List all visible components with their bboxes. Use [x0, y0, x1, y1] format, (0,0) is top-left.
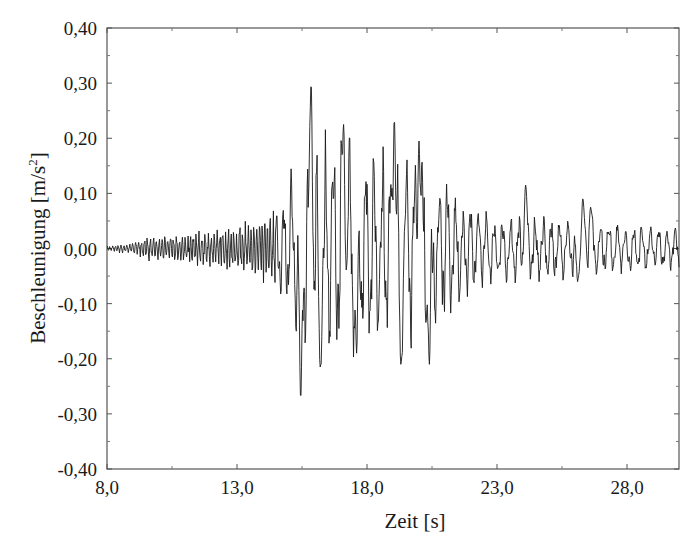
y-tick-label: -0,40: [57, 459, 97, 480]
x-tick-label: 8,0: [95, 477, 119, 498]
x-tick-label: 28,0: [610, 477, 643, 498]
y-axis-title-end: ]: [26, 152, 50, 159]
acceleration-series: [107, 87, 679, 396]
y-axis-title: Beschleunigung [m/s2]: [25, 152, 50, 343]
x-tick-label: 18,0: [350, 477, 383, 498]
acceleration-line: [107, 87, 679, 396]
y-tick-label: 0,30: [64, 73, 97, 94]
y-tick-label: -0,10: [57, 294, 97, 315]
y-tick-label: -0,20: [57, 349, 97, 370]
y-tick-label: 0,10: [64, 183, 97, 204]
y-tick-label: -0,30: [57, 404, 97, 425]
x-axis: 8,013,018,023,028,0: [95, 28, 644, 498]
y-tick-label: 0,00: [64, 239, 97, 260]
y-tick-label: 0,20: [64, 128, 97, 149]
x-tick-label: 13,0: [220, 477, 253, 498]
y-axis-title-main: Beschleunigung [m/s: [26, 166, 50, 344]
x-tick-label: 23,0: [480, 477, 513, 498]
acceleration-chart: 0,400,300,200,100,00-0,10-0,20-0,30-0,40…: [0, 0, 698, 545]
x-axis-title: Zeit [s]: [384, 509, 445, 533]
y-tick-label: 0,40: [64, 18, 97, 39]
